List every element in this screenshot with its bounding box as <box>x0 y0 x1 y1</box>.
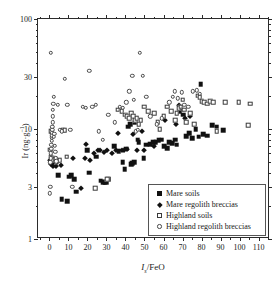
x-axis-minor-tick <box>154 237 155 240</box>
data-point <box>141 156 146 161</box>
filled-diamond-icon <box>154 203 165 207</box>
x-axis-tick <box>259 15 260 19</box>
data-point <box>205 133 210 138</box>
x-axis-tick <box>68 15 69 19</box>
x-axis-tick <box>106 237 107 241</box>
data-point <box>82 156 87 161</box>
data-point <box>53 144 57 148</box>
y-axis-minor-tick <box>268 52 271 53</box>
data-point <box>85 148 90 153</box>
y-axis-minor-tick <box>268 162 271 163</box>
y-axis-tick-label: 1 <box>28 235 32 244</box>
y-axis-minor-tick <box>36 153 39 154</box>
legend-item-label: Mare soils <box>165 189 200 198</box>
legend-item: Highland soils <box>154 210 261 221</box>
x-axis-tick <box>221 15 222 19</box>
data-point <box>58 163 63 168</box>
x-axis-tick <box>240 15 241 19</box>
x-axis-tick <box>49 15 50 19</box>
x-axis-tick <box>164 15 165 19</box>
y-axis-tick-label: 3 <box>28 182 32 191</box>
x-axis-tick <box>125 15 126 19</box>
legend-item-label: Mare regolith breccias <box>165 200 238 209</box>
y-axis-tick <box>34 77 38 78</box>
data-point <box>198 82 203 87</box>
data-point <box>136 140 141 145</box>
data-point <box>52 132 56 136</box>
y-axis-minor-tick <box>268 140 271 141</box>
figure: Ir (ng·g−1) 131030100 010203040506070809… <box>0 0 280 282</box>
data-point <box>130 74 134 78</box>
x-axis-minor-tick <box>135 237 136 240</box>
data-point <box>175 142 180 147</box>
data-point <box>132 97 136 101</box>
y-axis-minor-tick <box>268 24 271 25</box>
x-axis-tick <box>87 15 88 19</box>
data-point <box>48 191 52 195</box>
data-point <box>70 184 74 188</box>
x-axis-minor-tick <box>249 237 250 240</box>
y-axis-tick <box>268 187 272 188</box>
data-point <box>159 137 164 142</box>
data-point <box>105 177 110 182</box>
data-point <box>223 100 228 105</box>
y-axis-tick <box>268 77 272 78</box>
x-axis-tick-label: 10 <box>64 243 72 252</box>
data-point <box>59 197 64 202</box>
data-point <box>236 100 241 105</box>
y-axis-minor-tick <box>268 146 271 147</box>
y-axis-minor-tick <box>268 36 271 37</box>
data-point <box>221 128 226 133</box>
open-square-icon <box>154 213 165 217</box>
data-point <box>56 103 60 107</box>
y-axis-tick <box>268 129 272 130</box>
y-axis-tick-label: 100 <box>20 15 32 24</box>
data-point <box>125 146 130 151</box>
y-axis-minor-tick <box>268 30 271 31</box>
y-axis-minor-tick <box>36 96 39 97</box>
x-axis-tick-label: 50 <box>140 243 148 252</box>
data-point <box>134 147 139 152</box>
legend-item-label: Highland regolith breccias <box>165 222 251 231</box>
data-point <box>190 136 195 141</box>
filled-square-icon <box>154 191 165 195</box>
y-axis-minor-tick <box>268 206 271 207</box>
x-axis-tick <box>164 237 165 241</box>
data-point <box>87 68 91 72</box>
x-axis-minor-tick <box>78 17 79 20</box>
data-point <box>94 103 98 107</box>
data-point <box>51 107 55 111</box>
x-axis-minor-tick <box>192 237 193 240</box>
data-point <box>49 51 53 55</box>
x-axis-tick <box>240 237 241 241</box>
data-point <box>186 104 190 108</box>
data-point <box>171 95 175 99</box>
data-point <box>214 129 219 134</box>
y-axis-tick <box>34 19 38 20</box>
y-axis-minor-tick <box>268 134 271 135</box>
legend-item: Mare regolith breccias <box>154 199 261 210</box>
x-axis-tick-label: 100 <box>234 243 246 252</box>
data-point <box>127 89 131 93</box>
y-axis-minor-tick <box>268 43 271 44</box>
data-point <box>71 155 76 160</box>
x-axis-tick <box>183 237 184 241</box>
data-point <box>165 146 170 151</box>
data-point <box>180 97 185 102</box>
data-point <box>140 74 144 78</box>
y-axis-minor-tick <box>36 36 39 37</box>
data-point <box>68 128 72 132</box>
data-point <box>132 160 137 165</box>
data-point <box>84 141 89 146</box>
legend-item-label: Highland soils <box>165 211 212 220</box>
y-axis-minor-tick <box>268 96 271 97</box>
data-point <box>142 148 147 153</box>
y-axis-minor-tick <box>36 206 39 207</box>
x-axis-minor-tick <box>97 17 98 20</box>
data-point <box>188 111 193 116</box>
x-axis-tick <box>221 237 222 241</box>
legend: Mare soilsMare regolith brecciasHighland… <box>148 184 266 236</box>
x-axis-tick-label: 60 <box>160 243 168 252</box>
data-point <box>173 122 178 127</box>
x-axis-minor-tick <box>135 17 136 20</box>
